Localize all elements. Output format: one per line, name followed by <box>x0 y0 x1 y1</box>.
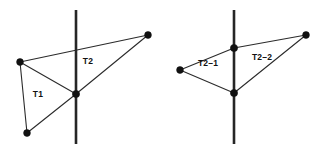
vertex-D <box>145 32 152 39</box>
edge-G-E <box>180 70 234 93</box>
label-t1: T1 <box>33 89 43 99</box>
edge-C-A <box>20 62 76 94</box>
vertex-H <box>303 32 310 39</box>
panel-before-split: T1 T2 <box>17 10 152 144</box>
vertex-G <box>230 89 237 96</box>
label-t2: T2 <box>83 56 93 66</box>
panel-after-split: T2–1 T2–2 <box>177 10 310 144</box>
triangle-edges-left <box>20 35 148 133</box>
edge-F-H <box>234 35 306 48</box>
label-t2-1: T2–1 <box>198 58 218 68</box>
vertex-B <box>24 130 31 137</box>
vertex-E <box>177 67 184 74</box>
edge-A-B <box>20 62 27 133</box>
edge-B-C <box>27 94 76 133</box>
vertices-right <box>177 32 310 97</box>
vertices-left <box>17 32 152 137</box>
triangle-split-diagram: T1 T2 T2–1 T2–2 <box>0 0 325 151</box>
vertex-A <box>17 59 24 66</box>
vertex-C <box>72 90 79 97</box>
label-t2-2: T2–2 <box>252 52 272 62</box>
vertex-F <box>230 44 237 51</box>
diagram-canvas: T1 T2 T2–1 T2–2 <box>0 0 325 151</box>
edge-H-G <box>234 35 306 93</box>
